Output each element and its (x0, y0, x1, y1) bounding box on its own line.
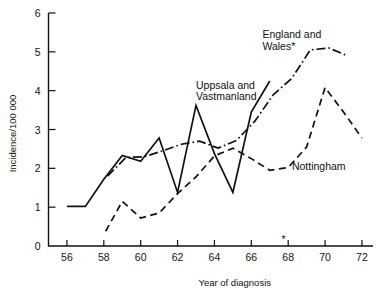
nottingham-label: Nottingham (292, 160, 346, 172)
y-tick-label-2: 2 (35, 162, 41, 174)
line-chart: 565860626466687072 0123456 Uppsala and V… (0, 0, 380, 300)
x-tick-label-64: 64 (209, 251, 221, 263)
x-axis-ticks (67, 240, 362, 246)
y-tick-label-0: 0 (35, 240, 41, 252)
x-tick-label-70: 70 (319, 251, 331, 263)
annotations-group: Uppsala and Vastmanland England and Wale… (196, 28, 346, 245)
axis-asterisk-marker: * (282, 233, 286, 245)
england-wales-label-line1: England and (262, 28, 321, 40)
y-axis-ticks (49, 13, 56, 207)
y-axis-title: Incidence/100 000 (7, 95, 18, 173)
x-tick-label-56: 56 (61, 251, 73, 263)
y-axis-tick-labels: 0123456 (35, 7, 41, 252)
y-tick-label-1: 1 (35, 201, 41, 213)
chart-container: 565860626466687072 0123456 Uppsala and V… (0, 0, 380, 300)
x-axis-title: Year of diagnosis (198, 277, 271, 288)
y-tick-label-5: 5 (35, 46, 41, 58)
x-tick-label-62: 62 (172, 251, 184, 263)
x-tick-label-66: 66 (245, 251, 257, 263)
uppsala-label-line2: Vastmanland (196, 90, 257, 102)
y-tick-label-4: 4 (35, 85, 41, 97)
england-wales-label-line2: Wales* (262, 40, 295, 52)
x-axis-tick-labels: 565860626466687072 (61, 251, 368, 263)
uppsala-label-line1: Uppsala and (196, 79, 255, 91)
x-tick-label-72: 72 (356, 251, 368, 263)
y-tick-label-6: 6 (35, 7, 41, 19)
x-tick-label-60: 60 (135, 251, 147, 263)
x-tick-label-58: 58 (98, 251, 110, 263)
series-group (67, 48, 362, 231)
axes-group: 565860626466687072 0123456 (35, 7, 373, 263)
y-tick-label-3: 3 (35, 124, 41, 136)
x-tick-label-68: 68 (282, 251, 294, 263)
